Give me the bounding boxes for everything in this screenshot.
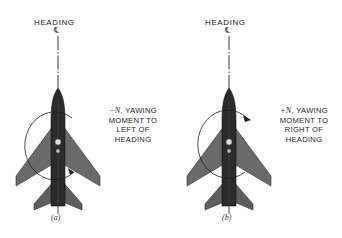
moment-description: −N, YAWING MOMENT TO LEFT OF HEADING — [102, 106, 164, 144]
right-tailplane — [234, 182, 253, 210]
left-tailplane — [205, 182, 224, 210]
right-wing — [234, 126, 271, 186]
left-tailplane — [34, 182, 53, 210]
panel-a-negative-yaw: HEADING ℄ −N, YAWING MOMENT TO LEFT OF H… — [0, 0, 171, 238]
moment-description: +N, YAWING MOMENT TO RIGHT OF HEADING — [273, 106, 335, 144]
left-wing — [187, 126, 224, 186]
right-tailplane — [63, 182, 82, 210]
arrowhead-icon — [243, 115, 251, 122]
sub-label: (a) — [51, 213, 60, 222]
right-wing — [63, 126, 100, 186]
panel-b-positive-yaw: HEADING ℄ +N, YAWING MOMENT TO RIGHT OF … — [171, 0, 342, 238]
center-of-gravity — [226, 139, 232, 145]
sub-label: (b) — [222, 213, 231, 222]
left-wing — [16, 126, 53, 186]
center-of-gravity — [55, 139, 61, 145]
